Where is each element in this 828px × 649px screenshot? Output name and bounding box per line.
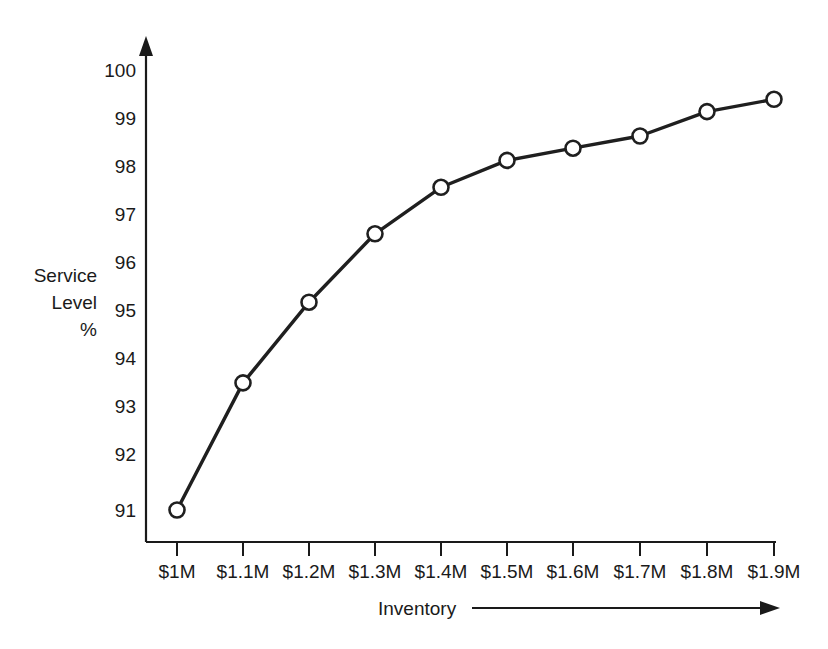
y-tick-label-93: 93 [115,396,136,417]
series-line-service-level [177,99,774,510]
data-point-marker [434,180,449,195]
data-point-marker [500,153,515,168]
x-tick-label-4: $1.4M [415,561,468,582]
y-axis-title-line-1: Service [34,265,97,286]
data-point-marker [700,104,715,119]
y-tick-label-100: 100 [104,60,136,81]
data-point-marker [566,141,581,156]
x-tick-label-1: $1.1M [217,561,270,582]
data-point-marker [170,503,185,518]
y-axis-arrow-icon [139,36,153,56]
y-tick-label-98: 98 [115,156,136,177]
x-tick-label-7: $1.7M [614,561,667,582]
data-point-marker [236,375,251,390]
data-point-marker [368,226,383,241]
y-tick-label-91: 91 [115,500,136,521]
chart-container: 100 99 98 97 96 95 94 93 92 91 Service L… [0,0,828,649]
x-axis-title: Inventory [378,598,457,619]
x-tick-label-3: $1.3M [349,561,402,582]
x-tick-label-9: $1.9M [748,561,801,582]
y-tick-label-99: 99 [115,108,136,129]
x-tick-label-8: $1.8M [681,561,734,582]
y-tick-label-97: 97 [115,204,136,225]
x-tick-label-6: $1.6M [547,561,600,582]
x-tick-label-0: $1M [159,561,196,582]
x-tick-label-2: $1.2M [283,561,336,582]
y-tick-label-96: 96 [115,252,136,273]
series-markers [170,92,782,518]
y-tick-label-95: 95 [115,300,136,321]
x-axis-arrow-icon [760,601,780,615]
y-axis-title-line-3: % [80,319,97,340]
data-point-marker [302,295,317,310]
y-axis-title-line-2: Level [52,292,97,313]
x-tick-label-5: $1.5M [481,561,534,582]
y-tick-label-92: 92 [115,444,136,465]
line-chart: 100 99 98 97 96 95 94 93 92 91 Service L… [0,0,828,649]
y-tick-label-94: 94 [115,348,137,369]
data-point-marker [767,92,782,107]
data-point-marker [633,129,648,144]
